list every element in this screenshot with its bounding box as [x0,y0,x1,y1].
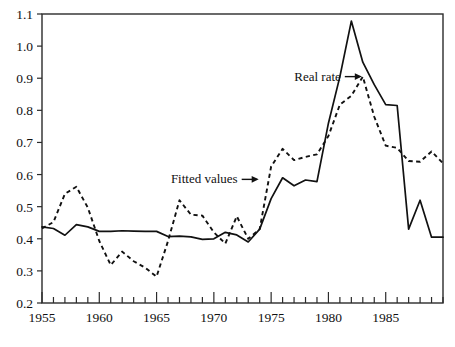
y-tick-label-0.8: 0.8 [16,103,33,118]
y-tick-label-0.6: 0.6 [16,168,33,183]
y-tick-label-0.5: 0.5 [16,200,33,215]
annotation-real-rate: Real rate [294,69,362,84]
y-axis-ticks [37,14,42,303]
x-tick-label-1985: 1985 [372,310,399,325]
x-axis-minor-ticks [53,297,443,303]
annotation-label-real-rate: Real rate [294,69,341,84]
plot-frame [42,14,443,303]
x-tick-label-1980: 1980 [315,310,342,325]
x-tick-label-1970: 1970 [200,310,227,325]
x-tick-label-1975: 1975 [258,310,285,325]
annotation-fitted-values: Fitted values [171,171,259,186]
y-tick-label-1.1: 1.1 [16,7,33,22]
series-line-real-rate [42,21,443,242]
x-tick-label-1955: 1955 [29,310,56,325]
annotation-arrowhead-fitted-values [252,176,259,183]
y-tick-label-0.9: 0.9 [16,71,33,86]
y-tick-label-0.7: 0.7 [16,135,33,150]
chart-annotations: Real rateFitted values [171,69,362,187]
y-axis-tick-labels: 1.11.00.90.80.70.60.50.40.30.2 [16,7,33,311]
data-series-group [42,21,443,277]
x-axis-major-ticks [42,292,386,303]
x-tick-label-1965: 1965 [143,310,170,325]
chart-canvas: 1.11.00.90.80.70.60.50.40.30.2 195519601… [0,0,455,347]
y-tick-label-0.3: 0.3 [16,264,33,279]
x-tick-label-1960: 1960 [86,310,113,325]
y-tick-label-0.4: 0.4 [16,232,33,247]
y-tick-label-1.0: 1.0 [16,39,33,54]
chart-figure: 1.11.00.90.80.70.60.50.40.30.2 195519601… [0,0,455,347]
annotation-label-fitted-values: Fitted values [171,171,238,186]
y-tick-label-0.2: 0.2 [16,296,33,311]
x-axis-tick-labels: 1955196019651970197519801985 [29,310,400,325]
plot-border [42,14,443,303]
series-line-fitted-values [42,77,443,277]
